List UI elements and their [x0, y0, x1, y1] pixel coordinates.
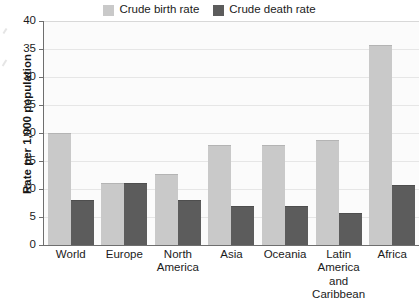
x-axis-tick-label-line: and: [312, 275, 366, 288]
x-axis-tick-label: Oceania: [258, 248, 312, 261]
x-axis-tick-label-line: Asia: [205, 248, 259, 261]
bar-group: [44, 21, 98, 245]
bar-group: [98, 21, 152, 245]
x-axis-tick-label-line: Oceania: [258, 248, 312, 261]
bar-group: [365, 21, 419, 245]
y-axis-tick-label: 15: [23, 155, 36, 167]
bar-series-container: [44, 21, 419, 245]
legend-swatch-death-icon: [213, 5, 224, 16]
x-axis-tick-label-line: North: [151, 248, 205, 261]
bar-birth-rate: [262, 145, 285, 245]
x-axis-tick-labels: WorldEuropeNorthAmericaAsiaOceaniaLatinA…: [44, 248, 419, 301]
x-axis-tick-label-line: Europe: [98, 248, 152, 261]
bar-group: [258, 21, 312, 245]
legend-item-crude-death-rate: Crude death rate: [213, 4, 315, 16]
bar-death-rate: [392, 185, 415, 245]
bar-birth-rate: [369, 45, 392, 245]
legend-label-birth: Crude birth rate: [119, 4, 199, 16]
y-axis-tick-label: 10: [23, 183, 36, 195]
y-axis-tick-labels: 4035302520151050: [0, 21, 44, 245]
y-axis-tick-label: 5: [30, 211, 36, 223]
bar-group: [312, 21, 366, 245]
bar-death-rate: [339, 213, 362, 245]
y-axis-tick-label: 0: [30, 239, 36, 251]
bar-death-rate: [124, 183, 147, 245]
chart-legend: Crude birth rate Crude death rate: [0, 0, 419, 20]
bar-birth-rate: [101, 183, 124, 245]
bar-death-rate: [178, 200, 201, 245]
bar-birth-rate: [208, 145, 231, 245]
y-axis-tick-label: 35: [23, 43, 36, 55]
x-axis-tick-label: NorthAmerica: [151, 248, 205, 275]
x-axis-tick-label: LatinAmericaandCaribbean: [312, 248, 366, 301]
x-axis-tick-label: World: [44, 248, 98, 261]
y-axis-tick-label: 40: [23, 15, 36, 27]
bar-death-rate: [285, 206, 308, 245]
bar-group: [205, 21, 259, 245]
legend-swatch-birth-icon: [103, 5, 114, 16]
legend-label-death: Crude death rate: [229, 4, 315, 16]
x-axis-tick-label: Asia: [205, 248, 259, 261]
x-axis-tick-label-line: Africa: [365, 248, 419, 261]
bar-birth-rate: [155, 174, 178, 245]
y-axis-tick-label: 25: [23, 99, 36, 111]
x-axis-line: [43, 245, 419, 246]
bar-death-rate: [231, 206, 254, 245]
x-axis-tick-label-line: Caribbean: [312, 288, 366, 301]
x-axis-tick-label-line: America: [151, 261, 205, 274]
x-axis-tick-label-line: World: [44, 248, 98, 261]
bar-death-rate: [71, 200, 94, 245]
chart-figure: Crude birth rate Crude death rate Rate p…: [0, 0, 419, 301]
x-axis-tick-label: Europe: [98, 248, 152, 261]
x-axis-tick-label-line: Latin: [312, 248, 366, 261]
x-axis-tick-label: Africa: [365, 248, 419, 261]
x-axis-tick-label-line: America: [312, 261, 366, 274]
plot-area: [44, 21, 419, 245]
y-axis-tick-label: 20: [23, 127, 36, 139]
legend-item-crude-birth-rate: Crude birth rate: [103, 4, 199, 16]
bar-birth-rate: [316, 140, 339, 245]
y-axis-tick-label: 30: [23, 71, 36, 83]
bar-birth-rate: [48, 133, 71, 245]
bar-group: [151, 21, 205, 245]
